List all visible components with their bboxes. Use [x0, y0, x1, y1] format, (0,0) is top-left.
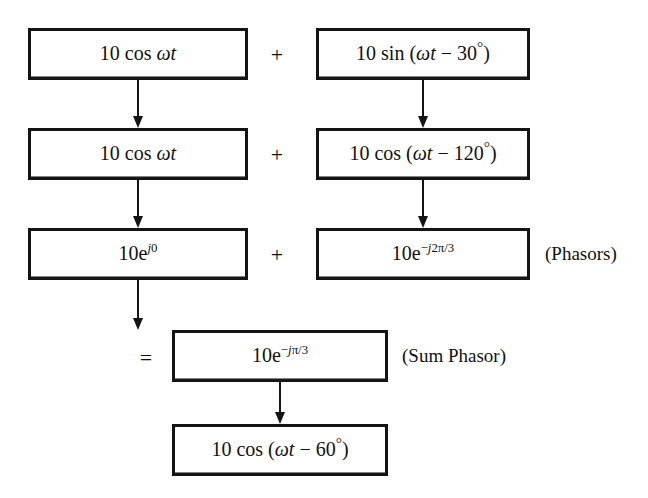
operator-plus-row3: +	[265, 244, 289, 266]
expression-10-sin-wt-30: 10 sin (ωt − 30°)	[356, 43, 490, 63]
expression-10-cos-wt-60: 10 cos (ωt − 60°)	[211, 439, 348, 459]
expression-phasor-10e-j0: 10ej0	[119, 243, 158, 263]
caption-phasors: (Phasors)	[545, 244, 617, 263]
diagram-canvas: 10 cos ωt + 10 sin (ωt − 30°) 10 cos ωt …	[0, 0, 648, 498]
expression-10-cos-wt-120: 10 cos (ωt − 120°)	[349, 143, 496, 163]
box-phasor-1: 10ej0	[28, 228, 248, 280]
arrow-right-row2-to-row3	[413, 180, 433, 228]
box-time-cos-2: 10 cos ωt	[28, 128, 248, 180]
operator-plus-row1: +	[265, 44, 289, 66]
arrow-sum-to-result	[270, 382, 290, 424]
box-result-time-domain: 10 cos (ωt − 60°)	[172, 424, 388, 476]
operator-equals-row4: =	[134, 347, 158, 369]
arrow-left-row1-to-row2	[128, 80, 148, 128]
expression-sum-phasor-10e-jpi3: 10e−jπ/3	[252, 345, 308, 365]
expression-phasor-10e-j2pi3: 10e−j2π/3	[392, 243, 455, 263]
box-time-sin-1: 10 sin (ωt − 30°)	[316, 28, 530, 80]
expression-10-cos-wt-2: 10 cos ωt	[100, 143, 176, 163]
arrow-phasors-to-sum	[128, 280, 148, 330]
caption-sum-phasor: (Sum Phasor)	[402, 346, 506, 365]
arrow-right-row1-to-row2	[413, 80, 433, 128]
box-sum-phasor: 10e−jπ/3	[172, 330, 388, 382]
box-time-cos-1: 10 cos ωt	[28, 28, 248, 80]
box-time-cos-120: 10 cos (ωt − 120°)	[316, 128, 530, 180]
operator-plus-row2: +	[265, 144, 289, 166]
arrow-left-row2-to-row3	[128, 180, 148, 228]
box-phasor-2: 10e−j2π/3	[316, 228, 530, 280]
expression-10-cos-wt-1: 10 cos ωt	[100, 43, 176, 63]
